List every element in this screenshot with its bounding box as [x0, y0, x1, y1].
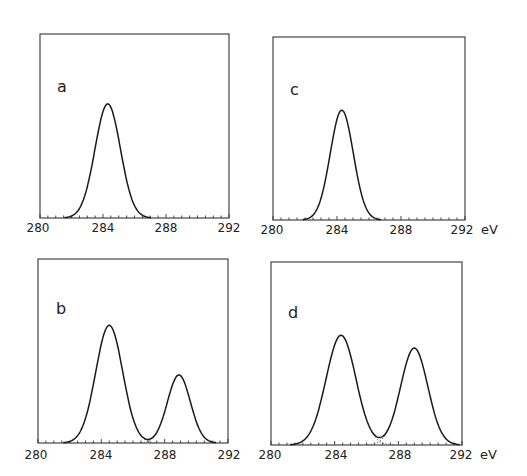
panel-d: d 280 284 288 292 eV [259, 262, 497, 462]
tick-label: 292 [218, 448, 241, 462]
spectrum-curve [64, 104, 151, 218]
x-axis-unit: eV [481, 222, 498, 237]
panel-label: b [56, 299, 66, 318]
tick-label: 284 [326, 223, 349, 237]
tick-label: 284 [90, 448, 113, 462]
x-axis-ticks [273, 216, 465, 220]
panel-label: d [288, 303, 298, 322]
tick-label: 288 [390, 223, 413, 237]
spectrum-curve [290, 335, 460, 445]
panel-label: c [290, 80, 299, 99]
panel-label: a [57, 77, 67, 96]
plot-frame [38, 259, 228, 443]
spectrum-curve [63, 325, 216, 443]
tick-label: 280 [25, 448, 48, 462]
spectrum-curve [303, 110, 381, 220]
fit-component-2 [140, 426, 160, 443]
tick-label: 292 [450, 448, 473, 462]
panel-a: a 280 284 288 292 [27, 34, 241, 235]
panel-b: b 280 284 288 292 [25, 259, 241, 462]
tick-label: 288 [389, 448, 412, 462]
tick-label: 284 [325, 448, 348, 462]
tick-label: 280 [27, 221, 50, 235]
x-axis-unit: eV [480, 447, 497, 462]
tick-label: 284 [92, 221, 115, 235]
xps-figure: a 280 284 288 292 c 280 284 288 292 eV b… [0, 0, 527, 476]
tick-label: 288 [154, 448, 177, 462]
tick-label: 288 [155, 221, 178, 235]
plot-frame [273, 37, 465, 220]
plot-frame [40, 34, 229, 218]
tick-label: 292 [451, 223, 474, 237]
tick-label: 292 [218, 221, 241, 235]
panel-c: c 280 284 288 292 eV [261, 37, 498, 237]
tick-label: 280 [261, 223, 284, 237]
tick-label: 280 [259, 448, 282, 462]
